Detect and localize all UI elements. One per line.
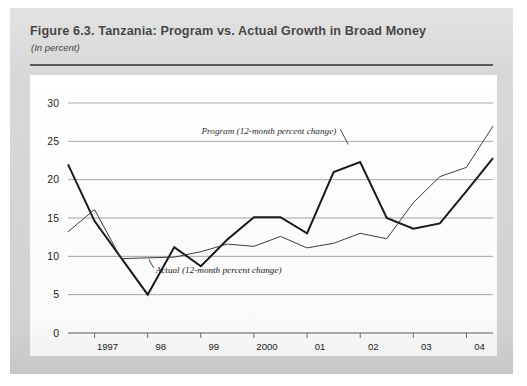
y-tick-label: 20: [47, 173, 59, 185]
y-tick-label: 0: [53, 327, 59, 339]
x-tick-label: 98: [155, 341, 166, 352]
y-tick-label: 10: [47, 250, 59, 262]
figure-card: Figure 6.3. Tanzania: Program vs. Actual…: [10, 8, 513, 374]
x-tick-label: 01: [315, 341, 326, 352]
y-tick-label: 30: [47, 97, 59, 109]
series-line-program: [68, 126, 493, 259]
chart-plot-panel: 051015202530 19979899200001020304 Progra…: [30, 75, 497, 356]
actual-leader-line: [149, 259, 154, 267]
y-tick-label: 25: [47, 135, 59, 147]
title-divider: [30, 64, 493, 66]
figure-subtitle: (In percent): [31, 42, 80, 53]
x-tick-label: 1997: [97, 341, 118, 352]
y-tick-label: 5: [53, 288, 59, 300]
page-title: Figure 6.3. Tanzania: Program vs. Actual…: [30, 24, 500, 38]
x-tick-label: 99: [209, 341, 220, 352]
series-annotations: Program (12-month percent change)Actual …: [149, 126, 348, 276]
x-axis: [68, 333, 493, 338]
series-annotation-label: Actual (12-month percent change): [155, 265, 282, 275]
line-chart: 051015202530 19979899200001020304 Progra…: [30, 75, 497, 356]
series-annotation-label: Program (12-month percent change): [200, 126, 336, 136]
y-tick-label: 15: [47, 212, 59, 224]
program-leader-line: [340, 129, 348, 144]
x-tick-label: 04: [474, 341, 485, 352]
x-tick-label: 03: [421, 341, 432, 352]
x-tick-label: 2000: [256, 341, 277, 352]
x-axis-tick-labels: 19979899200001020304: [97, 341, 485, 352]
x-tick-label: 02: [368, 341, 379, 352]
y-axis-tick-labels: 051015202530: [47, 97, 59, 339]
